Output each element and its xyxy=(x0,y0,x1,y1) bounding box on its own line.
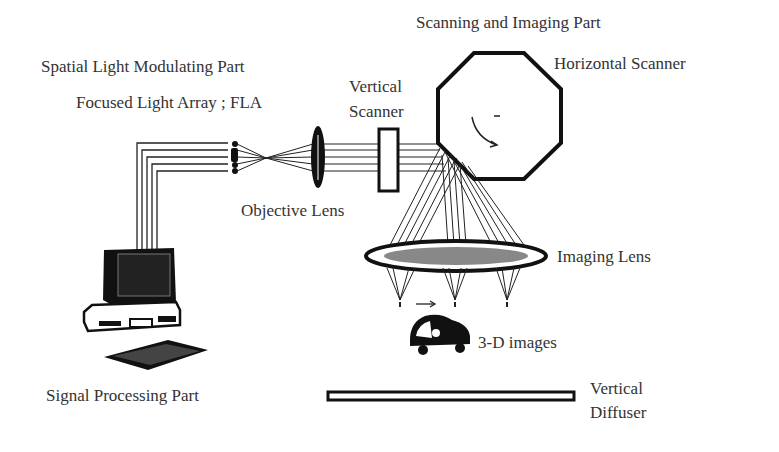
label-objective-lens: Objective Lens xyxy=(241,200,344,221)
label-spatial-light-modulating-part: Spatial Light Modulating Part xyxy=(41,56,245,77)
motion-arrow-icon xyxy=(416,301,435,307)
converging-rays xyxy=(237,144,313,171)
signal-cable-bundle xyxy=(137,143,228,252)
label-vertical-scanner-line2: Scanner xyxy=(349,101,404,122)
label-vertical-diffuser-line1: Vertical xyxy=(590,378,643,399)
computer-icon xyxy=(84,248,208,370)
label-vertical-diffuser-line2: Diffuser xyxy=(590,402,646,423)
label-vertical-scanner-line1: Vertical xyxy=(349,76,402,97)
label-3d-images: 3-D images xyxy=(478,332,557,353)
label-horizontal-scanner: Horizontal Scanner xyxy=(554,53,686,74)
focused-light-array xyxy=(231,141,238,174)
vertical-scanner xyxy=(379,129,398,191)
label-signal-processing-part: Signal Processing Part xyxy=(46,385,199,406)
label-focused-light-array: Focused Light Array ; FLA xyxy=(76,92,262,113)
vertical-diffuser xyxy=(328,392,574,400)
label-imaging-lens: Imaging Lens xyxy=(557,246,651,267)
label-scanning-imaging-part: Scanning and Imaging Part xyxy=(416,12,601,33)
